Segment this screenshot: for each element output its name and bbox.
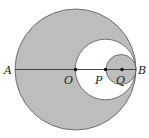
label-O: O bbox=[64, 74, 73, 87]
label-A: A bbox=[3, 64, 12, 77]
label-Q: Q bbox=[116, 74, 125, 87]
label-B: B bbox=[137, 64, 146, 77]
label-P: P bbox=[94, 74, 103, 87]
point-O bbox=[74, 68, 78, 72]
point-P bbox=[104, 68, 108, 72]
point-Q bbox=[120, 68, 124, 72]
geometry-diagram: A O P Q B bbox=[0, 0, 149, 138]
